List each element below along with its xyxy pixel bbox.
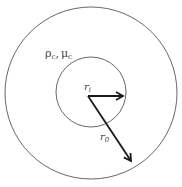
inner-radius-label: ri	[84, 81, 91, 94]
region-label: ρc,μc	[45, 47, 72, 61]
concentric-circles-diagram: ρc,μc ri r0	[0, 0, 182, 187]
outer-radius-arrow	[88, 96, 131, 161]
outer-radius-label: r0	[100, 131, 110, 144]
